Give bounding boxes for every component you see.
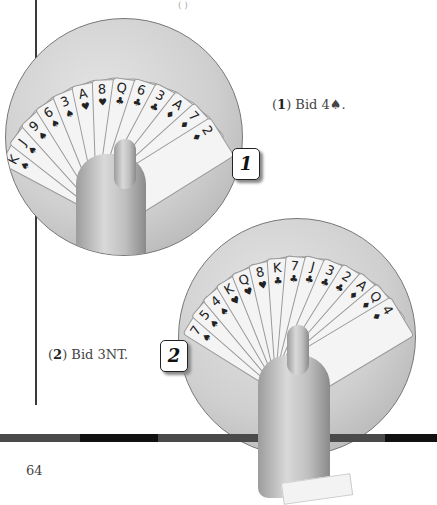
- caption-2-text: Bid 3NT.: [67, 347, 128, 362]
- caption-1-number: 1: [277, 97, 286, 112]
- hand-1-photo: K♠J♠9♠6♠3♠A♥8♥Q♣6♣3♣A♦7♦2♦: [5, 18, 243, 256]
- caption-1-text: Bid 4♠.: [291, 97, 345, 112]
- caption-2: (2) Bid 3NT.: [48, 347, 128, 362]
- card-index: A♥: [76, 86, 93, 114]
- footer-bar-segment: [0, 434, 80, 442]
- card-suit-icon: ♥: [96, 95, 108, 108]
- caption-1: (1) Bid 4♠.: [272, 97, 346, 112]
- figure-2-label: 2: [160, 340, 188, 372]
- figure-1-label: 1: [232, 148, 260, 180]
- caption-2-number: 2: [53, 347, 62, 362]
- hand-2-thumb: [287, 325, 309, 375]
- card-rank: 8: [98, 81, 107, 96]
- card-suit-icon: ♥: [78, 99, 92, 114]
- cropped-text-fragment: ( ): [178, 0, 188, 10]
- page-number: 64: [26, 463, 43, 478]
- footer-bar-segment: [158, 434, 268, 442]
- card-index: 8♥: [96, 82, 109, 108]
- hand-1-thumb: [114, 139, 136, 189]
- footer-bar: [0, 434, 437, 442]
